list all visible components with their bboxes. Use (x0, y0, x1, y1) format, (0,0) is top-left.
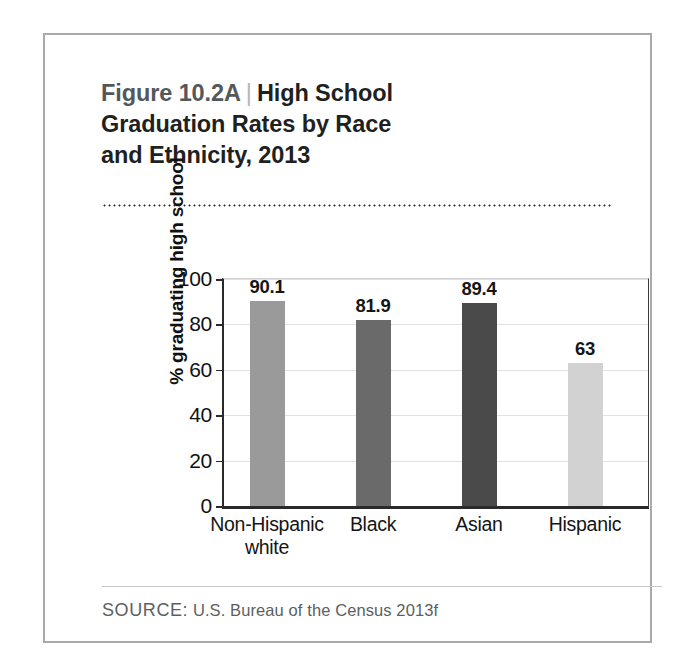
y-axis-tick-label: 20 (189, 448, 212, 472)
figure-frame: Figure 10.2A|High School Graduation Rate… (43, 33, 652, 643)
y-axis-tick (216, 506, 224, 508)
y-axis-tick (216, 415, 224, 417)
gridline (224, 279, 648, 280)
plot-area: 02040608010090.1Non-Hispanicwhite81.9Bla… (222, 278, 649, 509)
y-axis-tick-label: 60 (189, 357, 212, 381)
bar-value-label: 81.9 (355, 295, 390, 317)
figure-title-line1: High School (257, 80, 393, 106)
y-axis-tick (216, 324, 224, 326)
bar-value-label: 63 (575, 338, 595, 360)
bar-value-label: 89.4 (461, 278, 496, 300)
y-axis-tick-label: 40 (189, 403, 212, 427)
x-axis-category-label: Hispanic (549, 513, 621, 536)
source-divider (102, 586, 662, 587)
source-label: SOURCE: (102, 600, 188, 620)
bar: 90.1Non-Hispanicwhite (250, 301, 285, 506)
source-note: SOURCE: U.S. Bureau of the Census 2013f (102, 600, 438, 621)
figure-number: Figure 10.2A (101, 80, 241, 106)
x-axis-category-label: Asian (455, 513, 502, 536)
figure-title-separator: | (241, 80, 257, 106)
bar-chart: % graduating high school 02040608010090.… (102, 225, 622, 555)
y-axis-tick (216, 279, 224, 281)
bar: 81.9Black (356, 320, 391, 506)
bar: 63Hispanic (568, 363, 603, 506)
x-axis-category-label: Black (350, 513, 396, 536)
y-axis-tick-label: 80 (189, 312, 212, 336)
bar-value-label: 90.1 (249, 276, 284, 298)
y-axis-tick (216, 370, 224, 372)
bar: 89.4Asian (462, 303, 497, 506)
y-axis-tick-label: 100 (178, 267, 212, 291)
gridline (224, 324, 648, 325)
source-text: U.S. Bureau of the Census 2013f (193, 601, 438, 619)
figure-title-line2: Graduation Rates by Race (101, 111, 391, 137)
x-axis-category-label: Non-Hispanicwhite (210, 513, 323, 559)
figure-title-line3: and Ethnicity, 2013 (101, 142, 310, 168)
y-axis-tick (216, 461, 224, 463)
